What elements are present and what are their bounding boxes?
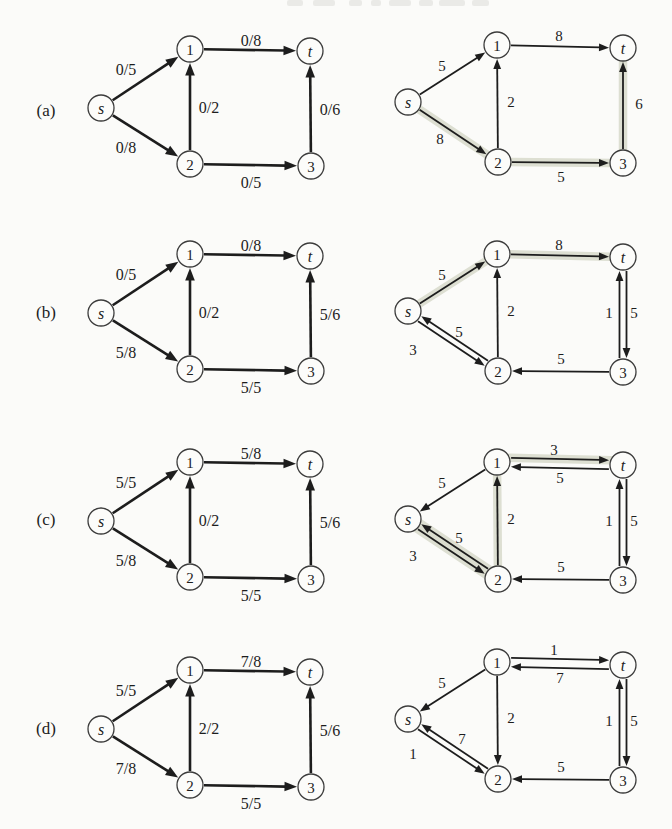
edge-1-t (204, 254, 285, 255)
edge-label-s-2: 0/8 (116, 139, 136, 156)
edge-label-2-3: 5/5 (241, 587, 261, 604)
edge-2-1-arrowhead-icon (493, 268, 501, 278)
edge-3-t (310, 281, 311, 357)
node-label-3: 3 (307, 364, 315, 380)
node-label-3: 3 (307, 159, 315, 175)
max-flow-figure: (a)(b)(c)(d)123st0/50/80/20/80/50/6123st… (0, 0, 672, 829)
edge-label-2-s: 7 (458, 731, 466, 747)
edge-t-3-arrowhead-icon (623, 756, 631, 766)
node-label-2: 2 (186, 570, 194, 586)
node-label-t: t (308, 456, 313, 473)
node-label-s: s (405, 511, 411, 528)
edge-2-3-arrowhead-icon (284, 782, 297, 792)
edge-2-1-arrowhead-icon (185, 63, 195, 76)
edge-label-3-2: 5 (557, 559, 565, 575)
edge-3-t-arrowhead-icon (305, 686, 315, 699)
node-label-t: t (621, 457, 626, 474)
edge-3-t-arrowhead-icon (305, 270, 315, 283)
edge-label-1-2: 2 (507, 710, 515, 726)
edge-1-s (427, 470, 485, 507)
edge-label-1-t: 1 (550, 642, 558, 658)
edge-2-3 (512, 162, 600, 163)
edge-label-1-t: 8 (555, 237, 563, 253)
edge-label-2-1: 0/2 (199, 99, 219, 116)
edge-label-1-t: 0/8 (241, 32, 261, 49)
edge-1-t (204, 49, 285, 50)
node-label-t: t (621, 657, 626, 674)
row-label-b: (b) (36, 303, 56, 322)
edge-s-1-arrowhead-icon (165, 262, 178, 273)
edge-label-1-t: 5/8 (241, 445, 261, 462)
edge-label-s-2: 5/8 (116, 344, 136, 361)
node-label-2: 2 (494, 572, 502, 588)
edge-s-1-arrowhead-icon (165, 470, 178, 481)
edge-2-3 (204, 164, 286, 165)
edge-2-1 (497, 68, 498, 148)
edge-label-t-1: 5 (556, 470, 564, 486)
edge-label-3-t: 1 (605, 305, 613, 321)
edge-label-2-3: 0/5 (241, 174, 261, 191)
edge-1-t-arrowhead-icon (283, 251, 296, 261)
edge-label-2-1: 0/2 (199, 304, 219, 321)
edge-label-2-1: 0/2 (199, 512, 219, 529)
edge-label-s-2: 3 (409, 548, 417, 564)
edge-1-t (204, 670, 285, 671)
edge-label-3-t: 5/6 (320, 306, 340, 323)
edge-label-s-1: 5/5 (116, 474, 136, 491)
edge-label-t-3: 5 (630, 713, 638, 729)
edge-1-s-arrowhead-icon (420, 503, 431, 512)
edge-2-1-arrowhead-icon (185, 476, 195, 489)
node-label-t: t (621, 249, 626, 266)
graph-a-right: 123st582856 (395, 28, 643, 185)
edge-label-1-s: 5 (438, 475, 446, 491)
edge-label-s-1: 5/5 (116, 682, 136, 699)
edge-label-2-3: 5/5 (241, 379, 261, 396)
node-label-s: s (98, 513, 104, 530)
edge-label-2-1: 2 (507, 94, 515, 110)
edge-label-1-t: 3 (550, 442, 558, 458)
node-label-s: s (98, 305, 104, 322)
edge-label-s-2: 8 (436, 131, 444, 147)
edge-label-2-1: 2/2 (199, 720, 219, 737)
node-label-3: 3 (307, 780, 315, 796)
graph-d-right: 123st517712515 (395, 642, 638, 793)
edge-label-s-1: 5 (438, 58, 446, 74)
edge-label-s-1: 5 (438, 267, 446, 283)
edge-s-2 (418, 321, 477, 360)
graph-b-right: 123st58532515 (395, 237, 638, 385)
row-label-a: (a) (37, 101, 56, 120)
node-label-3: 3 (307, 572, 315, 588)
edge-3-t-arrowhead-icon (616, 271, 624, 281)
edge-2-3-arrowhead-icon (284, 366, 297, 376)
edge-3-2 (521, 371, 609, 372)
edge-label-s-1: 0/5 (116, 61, 136, 78)
node-label-t: t (308, 43, 313, 60)
edge-1-t (204, 462, 285, 463)
edge-label-2-3: 5/5 (241, 795, 261, 812)
edge-label-2-3: 5 (557, 169, 565, 185)
edge-label-3-2: 5 (557, 351, 565, 367)
node-label-1: 1 (493, 247, 501, 263)
edge-label-3-t: 1 (605, 713, 613, 729)
scanned-page: (a)(b)(c)(d)123st0/50/80/20/80/50/6123st… (0, 0, 672, 829)
edge-1-s-arrowhead-icon (420, 703, 431, 712)
edge-t-1 (520, 467, 609, 469)
edge-s-1-arrowhead-icon (165, 57, 178, 68)
edge-t-3-arrowhead-icon (623, 348, 631, 358)
header-remnant-block (439, 0, 465, 6)
node-label-s: s (98, 100, 104, 117)
edge-label-1-t: 8 (555, 28, 563, 44)
header-remnant-block (389, 0, 411, 6)
node-label-3: 3 (619, 573, 627, 589)
header-remnant-block (419, 0, 433, 6)
edge-label-3-t: 5/6 (320, 722, 340, 739)
edge-s-2-arrowhead-icon (165, 146, 178, 157)
header-remnant-block (349, 0, 362, 6)
edge-1-t-arrowhead-icon (599, 44, 609, 52)
edge-2-1 (497, 277, 498, 357)
edge-label-3-2: 5 (557, 759, 565, 775)
edge-1-2-arrowhead-icon (494, 755, 502, 765)
edge-s-2-arrowhead-icon (165, 767, 178, 778)
node-label-s: s (405, 711, 411, 728)
node-label-s: s (405, 94, 411, 111)
